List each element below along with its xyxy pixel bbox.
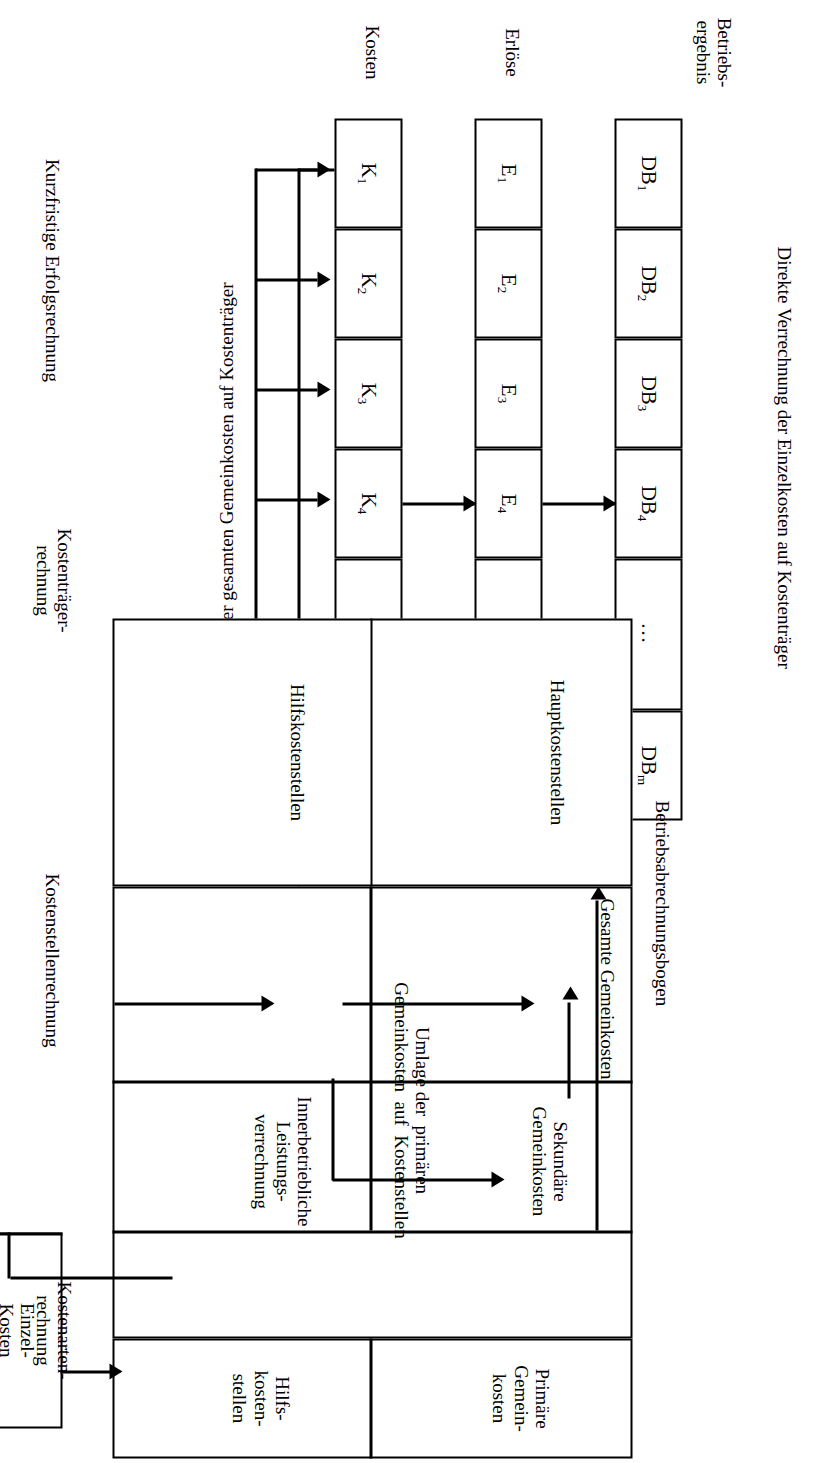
arrowhead-k-to-e — [463, 495, 476, 511]
connector-umlage-k4 — [255, 498, 317, 501]
cell-e-1: E1 — [474, 118, 542, 228]
cell-e-2: E2 — [474, 228, 542, 338]
arrowhead-haupt-to-gesamt — [590, 886, 606, 899]
cell-e-4: E4 — [474, 448, 542, 558]
arrowhead-umlage-k2 — [317, 271, 330, 287]
arrowhead-umlage-k4 — [317, 491, 330, 507]
bab-label-gesamte-gemeinkosten: Gesamte Gemeinkosten — [596, 898, 617, 1338]
stage-label-kostenstellenrechnung: Kostenstellenrechnung — [41, 770, 62, 1150]
bab-row-hilfskostenstellen: Hilfs- kosten- stellen — [228, 1338, 292, 1458]
direkte-verrechnung-label: Direkte Verrechnung der Einzelkosten auf… — [773, 246, 794, 886]
bypass-riser-left — [298, 168, 334, 171]
row-label-erloese: Erlöse — [501, 0, 522, 112]
cell-e-3: E3 — [474, 338, 542, 448]
cell-k-3: K3 — [334, 338, 402, 448]
connector-ilv-feed — [331, 1078, 334, 1180]
bab-column-divider — [370, 618, 372, 886]
connector-umlage-k2 — [255, 278, 317, 281]
bab-label-umlage-primaere: Umlage der primären Gemeinkosten auf Kos… — [389, 900, 432, 1320]
arrowhead-umlage-k3 — [317, 381, 330, 397]
bab-rowlabel-divider — [369, 1338, 372, 1458]
arrowhead-kostenarten-to-bab — [109, 1363, 122, 1379]
bab-label-sekundaere-gemeinkosten: Sekundäre Gemeinkosten — [527, 1086, 570, 1236]
row-label-kosten: Kosten — [361, 0, 382, 112]
arrowhead-ilv-to-sekundaere — [491, 1171, 504, 1187]
row-label-betriebsergebnis: Betriebs- ergebnis — [691, 0, 734, 112]
bab-title: Betriebsabrechnungsbogen — [651, 800, 672, 1140]
arrowhead-primaere-to-hilfs — [261, 995, 274, 1011]
cell-db-3: DB3 — [614, 338, 682, 448]
connector-haupt-to-gesamt — [595, 900, 598, 1230]
arrowhead-e-to-db — [603, 495, 616, 511]
bypass-einzelkosten-leg — [7, 1232, 10, 1278]
bab-label-ilv: Innerbetriebliche Leistungs- verrechnung — [250, 1086, 314, 1236]
stage-label-kostentraegerrechnung: Kostenträger- rechnung — [31, 460, 74, 700]
connector-umlage-k3 — [255, 388, 317, 391]
connector-primaere-to-hilfs — [114, 1002, 262, 1005]
bab-row-primaere-gemeinkosten: Primäre Gemein- kosten — [488, 1338, 552, 1458]
cell-k-2: K2 — [334, 228, 402, 338]
cell-db-2: DB2 — [614, 228, 682, 338]
connector-primaere-to-haupt — [342, 1002, 522, 1005]
stage-label-kurzfristige-erfolgsrechnung: Kurzfristige Erfolgsrechnung — [41, 60, 62, 480]
cell-db-4: DB4 — [614, 448, 682, 558]
connector-sekundaere-to-gesamt — [567, 1002, 570, 1098]
diagram-canvas: Betriebs- ergebnis DB1 DB2 DB3 DB4 … DBm… — [0, 0, 822, 1463]
stage-label-kostenartenrechnung: Kostenarten- rechnung — [31, 1210, 74, 1450]
cell-db-1: DB1 — [614, 118, 682, 228]
arrowhead-sekundaere-to-gesamt — [562, 986, 578, 999]
arrowhead-primaere-to-haupt — [521, 995, 534, 1011]
bab-column-hilfskostenstellen: Hilfskostenstellen — [286, 618, 307, 886]
cell-k-4: K4 — [334, 448, 402, 558]
cell-k-1: K1 — [334, 118, 402, 228]
bab-column-hauptkostenstellen: Hauptkostenstellen — [546, 618, 567, 886]
connector-ilv-to-sekundaere — [332, 1178, 492, 1181]
